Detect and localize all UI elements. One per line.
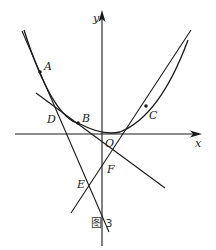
diagram-canvas: y x O A B C D E F 图 3	[0, 0, 216, 250]
x-axis-label: x	[195, 137, 202, 150]
point-b	[76, 121, 80, 125]
point-a-label: A	[43, 60, 52, 73]
point-d-label: D	[46, 113, 56, 126]
figure-caption: 图 3	[91, 217, 113, 230]
y-axis-label: y	[92, 12, 100, 25]
point-e-label: E	[76, 178, 85, 191]
point-f-label: F	[106, 163, 115, 176]
point-b-label: B	[81, 112, 90, 125]
point-a	[38, 70, 42, 74]
point-c	[144, 104, 148, 108]
tangent-line-a	[22, 31, 109, 232]
origin-label: O	[105, 137, 114, 150]
point-c-label: C	[149, 109, 158, 122]
